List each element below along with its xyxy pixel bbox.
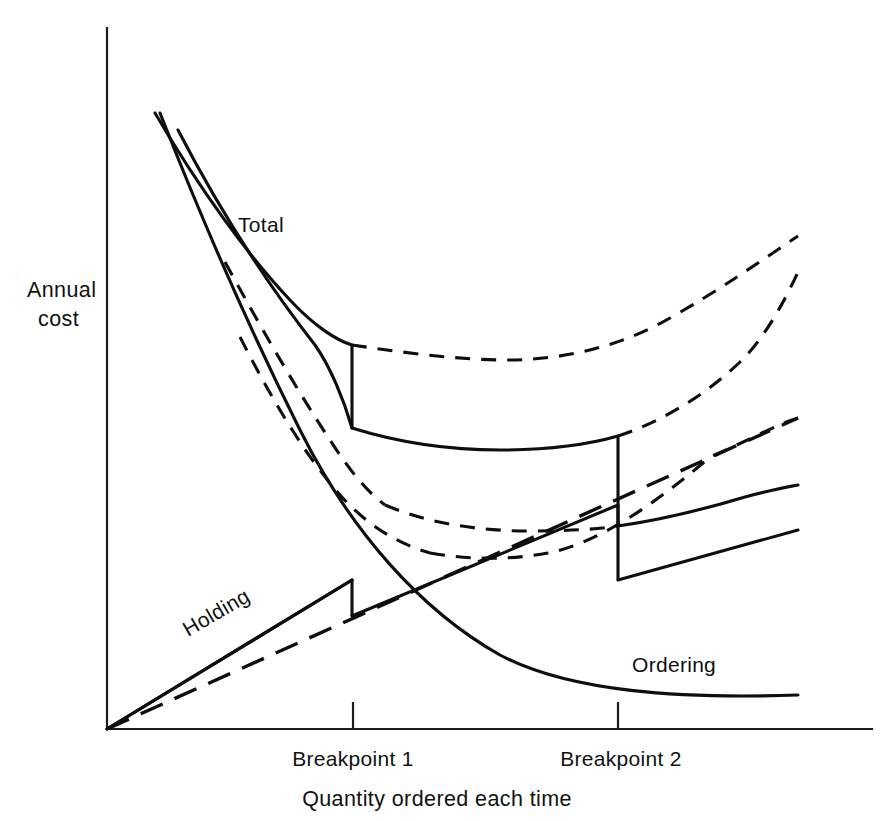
ordering-curve	[160, 113, 798, 696]
chart-figure: Annual cost Total Holding Ordering Break…	[0, 0, 895, 821]
total-cost-curve-level-1	[155, 113, 798, 360]
axes-group	[107, 28, 872, 729]
holding-line-level-3	[618, 530, 798, 580]
y-axis-label-line1: Annual	[27, 278, 96, 302]
tick-label-breakpoint-1: Breakpoint 1	[292, 747, 414, 770]
holding-line-dashed-ray	[107, 418, 798, 729]
labels-group: Annual cost Total Holding Ordering Break…	[27, 213, 716, 811]
total-cost-curve-level-4	[240, 337, 798, 558]
total-curve-1-dashed-continuation	[352, 236, 798, 360]
total-curve-3-solid-feasible	[618, 485, 798, 526]
total-curve-3-dashed-upper	[225, 262, 385, 505]
series-label-ordering: Ordering	[632, 653, 716, 676]
total-curve-4-dashed-lower-right	[430, 418, 798, 558]
y-axis-label-line2: cost	[38, 307, 79, 331]
total-cost-curve-level-2	[178, 130, 798, 450]
tick-label-breakpoint-2: Breakpoint 2	[560, 747, 682, 770]
holding-cost-lines	[107, 418, 798, 729]
chart-svg: Annual cost Total Holding Ordering Break…	[0, 0, 895, 821]
ordering-cost-curve	[160, 113, 798, 696]
series-label-holding: Holding	[179, 584, 254, 641]
total-cost-curve-level-3	[225, 262, 798, 531]
x-axis-label: Quantity ordered each time	[302, 787, 572, 811]
series-label-total: Total	[238, 213, 284, 236]
total-curve-2-solid-feasible	[352, 428, 618, 450]
